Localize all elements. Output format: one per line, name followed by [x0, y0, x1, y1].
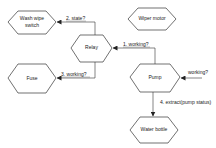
edge-label-state: 2. state?	[66, 15, 85, 21]
edge-label-extract: 4. extract(pump status)	[160, 99, 211, 105]
diagram-canvas: Wash wipe switch Wiper motor Relay Pump …	[0, 0, 216, 148]
node-pump[interactable]: Pump	[130, 64, 180, 92]
node-wash-wipe-switch[interactable]: Wash wipe switch	[8, 11, 56, 34]
node-label-pump: Pump	[148, 74, 161, 80]
edge-working-external: working?	[181, 69, 208, 78]
node-water-bottle[interactable]: Water bottle	[130, 117, 178, 143]
edge-label-working-3: 3. working?	[61, 71, 87, 77]
edge-label-working-external: working?	[188, 69, 208, 75]
node-relay[interactable]: Relay	[71, 35, 112, 62]
edge-working-3: 3. working?	[57, 62, 95, 78]
edge-state: 2. state?	[57, 15, 95, 35]
node-wiper-motor[interactable]: Wiper motor	[128, 8, 176, 30]
node-label-wiper-motor: Wiper motor	[138, 15, 166, 21]
node-label-water-bottle: Water bottle	[141, 126, 168, 132]
edge-working-1: 1. working?	[113, 41, 155, 64]
node-label-wash-wipe-line2: switch	[25, 22, 39, 28]
edge-label-working-1: 1. working?	[123, 41, 149, 47]
node-label-relay: Relay	[85, 44, 98, 50]
edge-extract: 4. extract(pump status)	[153, 92, 211, 116]
node-label-fuse: Fuse	[26, 75, 37, 81]
node-fuse[interactable]: Fuse	[8, 64, 56, 93]
node-label-wash-wipe-line1: Wash wipe	[20, 15, 44, 21]
